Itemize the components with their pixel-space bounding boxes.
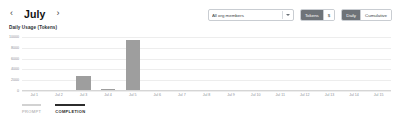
select-divider xyxy=(282,11,283,19)
current-month-label: July xyxy=(24,8,45,20)
bar-slot[interactable] xyxy=(22,37,47,90)
previous-month-button[interactable]: ‹ xyxy=(6,7,17,20)
bar[interactable] xyxy=(126,40,140,90)
legend-swatch xyxy=(55,104,85,106)
x-axis-tick-label: Jul 3 xyxy=(71,93,96,97)
unit-toggle-currency[interactable]: $ xyxy=(323,10,334,20)
x-axis-tick-label: Jul 9 xyxy=(219,93,244,97)
y-axis-tick-label: 2000 xyxy=(11,78,19,82)
x-axis-tick-label: Jul 6 xyxy=(145,93,170,97)
y-axis-tick-label: 8000 xyxy=(11,46,19,50)
x-axis-tick-label: Jul 12 xyxy=(293,93,318,97)
bar-slot[interactable] xyxy=(47,37,72,90)
legend-label: PROMPT xyxy=(22,109,41,114)
bar-slot[interactable] xyxy=(366,37,391,90)
x-axis-tick-label: Jul 15 xyxy=(366,93,391,97)
next-month-button[interactable]: › xyxy=(52,7,63,20)
bar-slot[interactable] xyxy=(317,37,342,90)
gridline: 0 xyxy=(22,91,391,92)
bar-slot[interactable] xyxy=(342,37,367,90)
chart-title: Daily Usage (Tokens) xyxy=(9,25,57,30)
legend-item-completion[interactable]: COMPLETION xyxy=(55,104,85,114)
unit-toggle-group: Tokens $ xyxy=(300,9,335,21)
member-filter-value: All org members xyxy=(212,13,282,18)
bar-slot[interactable] xyxy=(268,37,293,90)
bar-slot[interactable] xyxy=(145,37,170,90)
x-axis-tick-label: Jul 8 xyxy=(194,93,219,97)
legend-item-prompt[interactable]: PROMPT xyxy=(22,104,41,114)
x-axis-tick-label: Jul 1 xyxy=(22,93,47,97)
range-toggle-cumulative[interactable]: Cumulative xyxy=(360,10,391,20)
bar-slot[interactable] xyxy=(120,37,145,90)
x-axis-tick-label: Jul 5 xyxy=(120,93,145,97)
usage-dashboard: ‹ July › All org members Tokens $ Daily … xyxy=(0,0,397,125)
x-axis-line xyxy=(22,90,391,91)
x-axis-tick-label: Jul 10 xyxy=(243,93,268,97)
bar[interactable] xyxy=(76,76,90,90)
legend-swatch xyxy=(22,104,41,106)
bar-slot[interactable] xyxy=(96,37,121,90)
x-axis-tick-label: Jul 4 xyxy=(96,93,121,97)
bar-slot[interactable] xyxy=(219,37,244,90)
range-toggle-daily[interactable]: Daily xyxy=(342,10,360,20)
bar-slot[interactable] xyxy=(293,37,318,90)
x-axis-tick-label: Jul 2 xyxy=(47,93,72,97)
bar-slot[interactable] xyxy=(170,37,195,90)
bar-slot[interactable] xyxy=(71,37,96,90)
legend-label: COMPLETION xyxy=(55,109,85,114)
toolbar-controls: All org members Tokens $ Daily Cumulativ… xyxy=(208,9,392,21)
bar-slot[interactable] xyxy=(243,37,268,90)
bar-slot[interactable] xyxy=(194,37,219,90)
x-axis-labels: Jul 1Jul 2Jul 3Jul 4Jul 5Jul 6Jul 7Jul 8… xyxy=(22,93,391,97)
toolbar: ‹ July › All org members Tokens $ Daily … xyxy=(0,0,397,30)
usage-bar-chart: 0200040006000800010000 Jul 1Jul 2Jul 3Ju… xyxy=(0,33,397,101)
unit-toggle-tokens[interactable]: Tokens xyxy=(301,10,323,20)
x-axis-tick-label: Jul 14 xyxy=(342,93,367,97)
bar-series xyxy=(22,37,391,90)
range-toggle-group: Daily Cumulative xyxy=(341,9,392,21)
x-axis-tick-label: Jul 13 xyxy=(317,93,342,97)
x-axis-tick-label: Jul 7 xyxy=(170,93,195,97)
month-navigator: ‹ July › xyxy=(6,7,63,20)
x-axis-tick-label: Jul 11 xyxy=(268,93,293,97)
y-axis-tick-label: 0 xyxy=(17,89,19,93)
chevron-down-icon xyxy=(286,14,290,16)
y-axis-tick-label: 10000 xyxy=(9,35,19,39)
plot-area: 0200040006000800010000 xyxy=(22,37,391,91)
chart-legend: PROMPTCOMPLETION xyxy=(22,104,85,114)
y-axis-tick-label: 4000 xyxy=(11,67,19,71)
y-axis-tick-label: 6000 xyxy=(11,57,19,61)
member-filter-select[interactable]: All org members xyxy=(208,9,294,21)
